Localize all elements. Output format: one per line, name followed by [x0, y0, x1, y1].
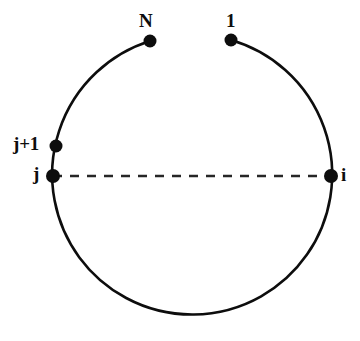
node-dot-N [144, 35, 157, 48]
node-label-j-plus-1: j+1 [13, 134, 39, 153]
node-label-j: j [33, 164, 39, 183]
ring-diagram-svg [0, 0, 360, 341]
node-label-i: i [341, 165, 346, 184]
node-dot-i [324, 169, 338, 183]
node-dot-j [46, 169, 60, 183]
node-label-1: 1 [226, 11, 235, 30]
node-dot-1 [225, 34, 238, 47]
node-dot-j-plus-1 [50, 140, 63, 153]
node-label-N: N [139, 11, 153, 30]
ring-arc-path [52, 40, 332, 315]
figure-container: N 1 j+1 j i [0, 0, 360, 341]
